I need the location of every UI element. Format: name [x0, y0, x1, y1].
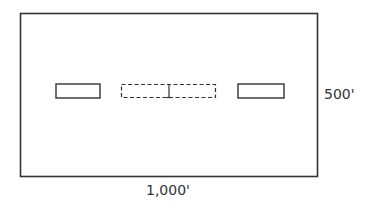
site-plan-diagram	[0, 0, 384, 212]
left-building	[56, 84, 100, 98]
right-building	[238, 84, 284, 98]
lot-height-label: 500'	[324, 87, 355, 101]
center-building-dashed	[122, 85, 216, 98]
lot-width-label: 1,000'	[146, 183, 190, 197]
